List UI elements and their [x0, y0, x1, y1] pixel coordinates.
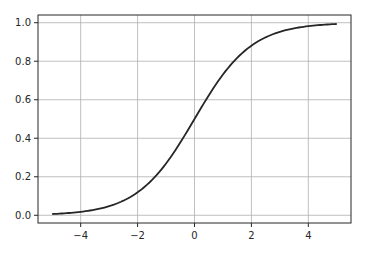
x-tick-label: 4 [305, 230, 311, 241]
y-tick-label: 1.0 [15, 17, 31, 28]
sigmoid-chart: −4−2024 0.00.20.40.60.81.0 [0, 0, 366, 257]
x-tick-label: −2 [130, 230, 145, 241]
y-tick-label: 0.6 [15, 94, 31, 105]
x-tick-label: 0 [191, 230, 197, 241]
y-axis: 0.00.20.40.60.81.0 [15, 17, 38, 221]
y-tick-label: 0.0 [15, 210, 31, 221]
chart-canvas: −4−2024 0.00.20.40.60.81.0 [0, 0, 366, 257]
x-tick-label: −4 [73, 230, 88, 241]
y-tick-label: 0.8 [15, 56, 31, 67]
x-axis: −4−2024 [73, 223, 311, 241]
y-tick-label: 0.4 [15, 133, 31, 144]
y-tick-label: 0.2 [15, 171, 31, 182]
x-tick-label: 2 [248, 230, 254, 241]
